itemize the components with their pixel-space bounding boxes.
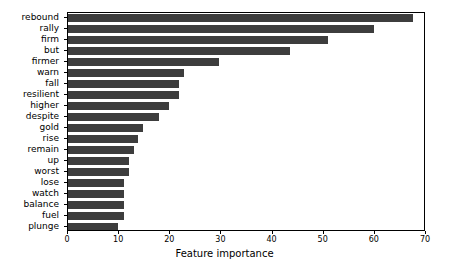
bar-fill xyxy=(68,135,138,143)
y-tick-label-higher: higher xyxy=(0,100,63,110)
bar-gold xyxy=(68,124,143,132)
y-tick-label-fuel: fuel xyxy=(0,210,63,220)
y-tick-mark xyxy=(64,72,67,73)
y-tick-label-fall: fall xyxy=(0,78,63,88)
bar-up xyxy=(68,157,129,165)
bar-balance xyxy=(68,201,124,209)
bar-fill xyxy=(68,80,179,88)
y-tick-mark xyxy=(64,204,67,205)
y-tick-mark xyxy=(64,28,67,29)
y-tick-label-gold: gold xyxy=(0,122,63,132)
y-tick-label-balance: balance xyxy=(0,199,63,209)
x-tick-mark-0 xyxy=(67,231,68,234)
bar-resilient xyxy=(68,91,179,99)
x-tick-mark-40 xyxy=(272,231,273,234)
plot-area xyxy=(67,12,425,231)
y-tick-mark xyxy=(64,138,67,139)
y-tick-label-resilient: resilient xyxy=(0,89,63,99)
bar-lose xyxy=(68,179,124,187)
x-tick-label-0: 0 xyxy=(55,236,79,244)
bar-fuel xyxy=(68,212,124,220)
y-tick-mark xyxy=(64,50,67,51)
bar-fill xyxy=(68,58,219,66)
y-tick-mark xyxy=(64,215,67,216)
bar-fill xyxy=(68,190,124,198)
y-tick-mark xyxy=(64,171,67,172)
y-tick-label-firm: firm xyxy=(0,34,63,44)
y-tick-label-rally: rally xyxy=(0,23,63,33)
y-tick-mark xyxy=(64,94,67,95)
bar-worst xyxy=(68,168,129,176)
x-tick-mark-50 xyxy=(323,231,324,234)
y-tick-label-rebound: rebound xyxy=(0,12,63,22)
y-tick-label-firmer: firmer xyxy=(0,56,63,66)
bar-fill xyxy=(68,113,159,121)
x-tick-mark-10 xyxy=(118,231,119,234)
bar-rally xyxy=(68,25,374,33)
bar-watch xyxy=(68,190,124,198)
bar-fill xyxy=(68,14,413,22)
bar-despite xyxy=(68,113,159,121)
bar-remain xyxy=(68,146,134,154)
y-tick-mark xyxy=(64,61,67,62)
bar-fill xyxy=(68,36,328,44)
y-tick-mark xyxy=(64,39,67,40)
y-tick-mark xyxy=(64,105,67,106)
y-tick-label-remain: remain xyxy=(0,144,63,154)
y-tick-label-warn: warn xyxy=(0,67,63,77)
y-tick-label-watch: watch xyxy=(0,188,63,198)
y-tick-label-plunge: plunge xyxy=(0,221,63,231)
y-tick-label-lose: lose xyxy=(0,177,63,187)
bar-rise xyxy=(68,135,138,143)
x-tick-label-50: 50 xyxy=(311,236,335,244)
x-tick-mark-20 xyxy=(169,231,170,234)
bar-fill xyxy=(68,201,124,209)
bar-fill xyxy=(68,124,143,132)
y-tick-label-worst: worst xyxy=(0,166,63,176)
y-tick-mark xyxy=(64,127,67,128)
y-tick-label-up: up xyxy=(0,155,63,165)
bar-rebound xyxy=(68,14,413,22)
y-tick-label-despite: despite xyxy=(0,111,63,121)
bar-fill xyxy=(68,223,118,231)
bar-fill xyxy=(68,25,374,33)
x-tick-label-40: 40 xyxy=(260,236,284,244)
bar-fill xyxy=(68,47,290,55)
x-tick-label-70: 70 xyxy=(413,236,437,244)
bar-but xyxy=(68,47,290,55)
bar-fill xyxy=(68,179,124,187)
bar-fill xyxy=(68,69,184,77)
x-tick-mark-60 xyxy=(374,231,375,234)
bar-firm xyxy=(68,36,328,44)
bar-plunge xyxy=(68,223,118,231)
y-tick-label-but: but xyxy=(0,45,63,55)
bar-fill xyxy=(68,212,124,220)
y-tick-mark xyxy=(64,193,67,194)
x-tick-label-30: 30 xyxy=(208,236,232,244)
y-tick-mark xyxy=(64,149,67,150)
bar-fall xyxy=(68,80,179,88)
x-tick-mark-30 xyxy=(220,231,221,234)
x-tick-mark-70 xyxy=(425,231,426,234)
bar-higher xyxy=(68,102,169,110)
y-tick-label-rise: rise xyxy=(0,133,63,143)
y-tick-mark xyxy=(64,83,67,84)
x-axis-label: Feature importance xyxy=(0,248,449,259)
y-tick-mark xyxy=(64,17,67,18)
x-tick-label-20: 20 xyxy=(157,236,181,244)
bar-fill xyxy=(68,157,129,165)
feature-importance-chart: reboundrallyfirmbutfirmerwarnfallresilie… xyxy=(0,0,449,266)
bar-fill xyxy=(68,102,169,110)
x-tick-label-10: 10 xyxy=(106,236,130,244)
y-tick-mark xyxy=(64,226,67,227)
bar-warn xyxy=(68,69,184,77)
bar-fill xyxy=(68,168,129,176)
y-tick-mark xyxy=(64,160,67,161)
y-tick-mark xyxy=(64,182,67,183)
bar-firmer xyxy=(68,58,219,66)
bar-fill xyxy=(68,146,134,154)
bar-fill xyxy=(68,91,179,99)
x-tick-label-60: 60 xyxy=(362,236,386,244)
y-tick-mark xyxy=(64,116,67,117)
